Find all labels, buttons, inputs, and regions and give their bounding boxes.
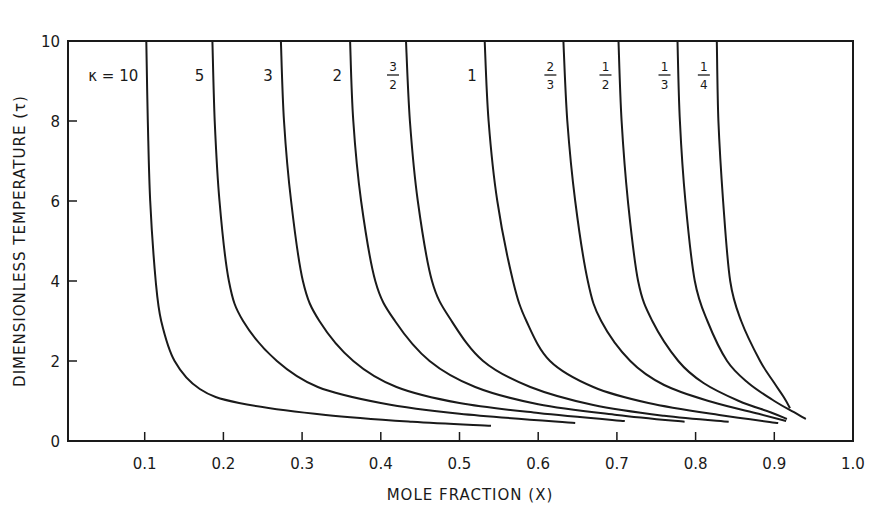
svg-text:3: 3 — [661, 78, 669, 92]
x-tick-label: 0.2 — [211, 455, 235, 473]
curve-label-kappa-3-2: 32 — [387, 60, 399, 92]
y-tick-label: 4 — [50, 273, 60, 291]
curve-label-kappa-5: 5 — [195, 67, 205, 85]
svg-text:3: 3 — [389, 60, 397, 74]
x-tick-label: 0.8 — [684, 455, 708, 473]
x-tick-label: 0.6 — [526, 455, 550, 473]
curve-label-kappa-1-3: 13 — [658, 60, 670, 92]
svg-text:1: 1 — [602, 60, 610, 74]
phase-diagram-chart: 0.10.20.30.40.50.60.70.80.91.0 0246810 κ… — [0, 0, 883, 520]
svg-text:3: 3 — [547, 78, 555, 92]
curve-kappa-1-3 — [678, 41, 806, 419]
y-tick-label: 0 — [50, 433, 60, 451]
svg-text:2: 2 — [389, 78, 397, 92]
y-axis-ticks: 0246810 — [41, 33, 77, 451]
curve-label-kappa-3: 3 — [263, 67, 273, 85]
x-tick-label: 0.9 — [762, 455, 786, 473]
curve-kappa-2-3 — [563, 41, 786, 421]
curve-label-kappa-10: κ = 10 — [88, 67, 138, 85]
y-tick-label: 2 — [50, 353, 60, 371]
y-tick-label: 8 — [50, 113, 60, 131]
curve-kappa-1-4 — [717, 41, 790, 408]
curve-label-kappa-2: 2 — [333, 67, 343, 85]
x-tick-label: 0.3 — [290, 455, 314, 473]
x-tick-label: 0.4 — [369, 455, 393, 473]
svg-text:4: 4 — [700, 78, 708, 92]
svg-text:2: 2 — [602, 78, 610, 92]
svg-text:1: 1 — [661, 60, 669, 74]
curves — [146, 41, 806, 426]
curve-label-kappa-1-4: 14 — [698, 60, 710, 92]
svg-text:1: 1 — [700, 60, 708, 74]
curve-label-kappa-2-3: 23 — [544, 60, 556, 92]
x-tick-label: 0.7 — [605, 455, 629, 473]
curve-label-kappa-1-2: 12 — [599, 60, 611, 92]
y-axis-title: DIMENSIONLESS TEMPERATURE (τ) — [11, 95, 29, 387]
x-tick-label: 1.0 — [841, 455, 865, 473]
svg-text:2: 2 — [547, 60, 555, 74]
x-tick-label: 0.1 — [133, 455, 157, 473]
curve-label-kappa-1: 1 — [467, 67, 477, 85]
curve-kappa-5 — [212, 41, 575, 423]
x-tick-label: 0.5 — [448, 455, 472, 473]
curve-kappa-3 — [281, 41, 625, 421]
y-tick-label: 10 — [41, 33, 60, 51]
x-axis-title: MOLE FRACTION (X) — [387, 486, 554, 504]
curve-labels: κ = 1053232123121314 — [88, 60, 710, 92]
x-axis-ticks: 0.10.20.30.40.50.60.70.80.91.0 — [133, 432, 865, 473]
y-tick-label: 6 — [50, 193, 60, 211]
